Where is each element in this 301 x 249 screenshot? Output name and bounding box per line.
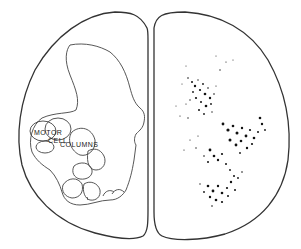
gray-matter-outline: [30, 44, 144, 205]
label-columns: COLUMNS: [60, 141, 99, 148]
spinal-cord-diagram: MOTOR CELL COLUMNS: [0, 0, 301, 249]
right-hemisection-outline: [154, 12, 289, 240]
stipple-ventral-cluster: [199, 171, 243, 207]
label-motor: MOTOR: [34, 129, 62, 136]
stipple-dorsal-cluster: [176, 56, 234, 119]
figure-caption-cropped: [0, 244, 301, 249]
stipple-lateral-cluster: [183, 117, 266, 171]
